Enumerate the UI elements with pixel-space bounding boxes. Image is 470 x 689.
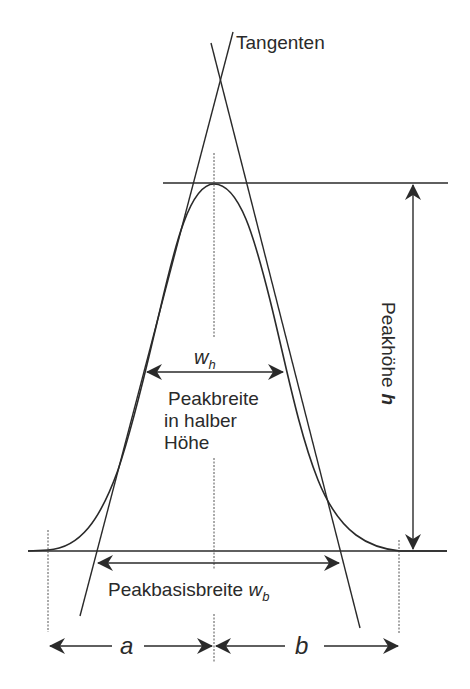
tangents-label: Tangenten xyxy=(236,32,325,53)
half-width-label-line1: Peakbreite xyxy=(168,388,259,409)
right-tangent xyxy=(211,43,360,628)
segment-b-label: b xyxy=(295,632,308,659)
base-width-label: Peakbasisbreite wb xyxy=(108,579,269,604)
peak-diagram: Tangenten wh Peakbreite in halber Höhe P… xyxy=(0,0,470,689)
half-width-label-line2: in halber xyxy=(164,410,238,431)
segment-a-label: a xyxy=(120,632,133,659)
left-tangent xyxy=(80,32,233,616)
half-width-label-line3: Höhe xyxy=(164,432,209,453)
half-width-symbol: wh xyxy=(194,346,216,372)
peak-height-label: Peakhöheh xyxy=(378,302,399,405)
